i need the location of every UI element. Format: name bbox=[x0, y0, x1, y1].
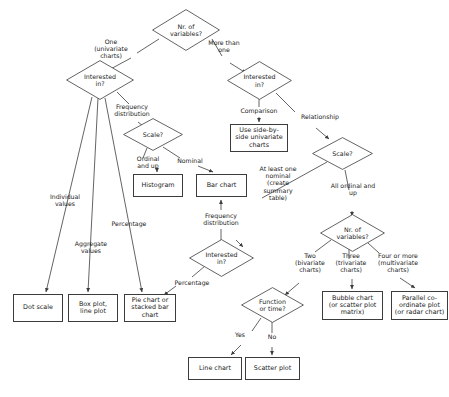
node-function-or-time[interactable]: Function or time? bbox=[241, 287, 304, 323]
node-parallel-coordinate-plot[interactable]: Parallel co- ordinate plot (or radar cha… bbox=[391, 291, 448, 320]
node-label: Interested in? bbox=[205, 251, 237, 265]
node-bubble-chart[interactable]: Bubble chart (or scatter plot matrix) bbox=[322, 291, 383, 320]
node-right-interested-in[interactable]: Interested in? bbox=[227, 61, 292, 100]
edge-label-percentage-mid: Percentage bbox=[170, 279, 214, 286]
node-label: Interested in? bbox=[84, 73, 116, 87]
edge-label-comparison: Comparison bbox=[236, 107, 282, 114]
node-side-by-side-charts[interactable]: Use side-by- side univariate charts bbox=[230, 124, 288, 152]
node-histogram[interactable]: Histogram bbox=[133, 174, 183, 197]
node-line-chart[interactable]: Line chart bbox=[188, 357, 242, 380]
node-label: Interested in? bbox=[243, 73, 275, 87]
edge-label-more-than-one: More than one bbox=[200, 39, 248, 53]
edge-label-all-ordinal-and-up: All ordinal and up bbox=[325, 182, 381, 196]
node-label: Scale? bbox=[143, 131, 163, 138]
node-left-scale[interactable]: Scale? bbox=[123, 118, 183, 151]
edge-label-yes: Yes bbox=[229, 331, 251, 338]
node-scatter-plot[interactable]: Scatter plot bbox=[245, 357, 300, 380]
node-label: Nr. of variables? bbox=[170, 23, 202, 37]
edge-label-aggregate-values: Aggregate values bbox=[70, 240, 112, 254]
node-dot-scale[interactable]: Dot scale bbox=[13, 294, 63, 322]
node-pie-chart[interactable]: Pie chart or stacked bar chart bbox=[124, 294, 176, 322]
edge-label-individual-values: Individual values bbox=[44, 193, 86, 207]
node-right-scale[interactable]: Scale? bbox=[312, 137, 373, 170]
node-mid-interested-in[interactable]: Interested in? bbox=[189, 239, 254, 277]
edge-label-relationship: Relationship bbox=[296, 113, 344, 120]
edge-label-nominal: Nominal bbox=[173, 157, 207, 164]
edge-label-percentage-left: Percentage bbox=[107, 220, 151, 227]
node-label: Function or time? bbox=[259, 298, 286, 312]
node-right-nr-variables[interactable]: Nr. of variables? bbox=[320, 214, 385, 252]
edge-label-frequency-distribution-left: Frequency distribution bbox=[108, 103, 156, 117]
flowchart-canvas: Nr. of variables? Interested in? Scale? … bbox=[0, 0, 449, 397]
edge-label-no: No bbox=[261, 333, 283, 340]
node-bar-chart[interactable]: Bar chart bbox=[196, 174, 247, 197]
node-label: Nr. of variables? bbox=[336, 226, 368, 240]
edge-label-ordinal-and-up: Ordinal and up bbox=[131, 155, 165, 169]
edge-label-frequency-distribution-mid: Frequency distribution bbox=[197, 212, 245, 226]
edge-label-four-or-more: Four or more (multivariate charts) bbox=[372, 252, 424, 274]
node-label: Scale? bbox=[332, 150, 352, 157]
edge-label-three-trivariate: Three (trivariate charts) bbox=[330, 252, 372, 274]
node-left-interested-in[interactable]: Interested in? bbox=[66, 60, 134, 100]
node-box-plot[interactable]: Box plot, line plot bbox=[68, 294, 118, 322]
edge-label-two-bivariate: Two (bivariate charts) bbox=[289, 252, 331, 274]
edge-label-at-least-one-nominal: At least one nominal (create summary tab… bbox=[254, 165, 302, 201]
edge-label-one-univariate: One (univariate charts) bbox=[88, 38, 134, 60]
